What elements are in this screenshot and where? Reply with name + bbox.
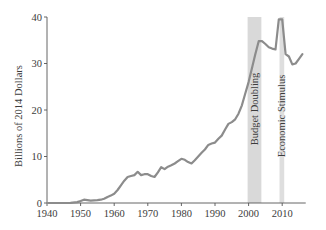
y-tick-label: 10 [32,151,43,162]
y-ticks: 010203040 [32,12,48,209]
y-axis-title: Billions of 2014 Dollars [13,65,24,167]
spending-line [47,19,302,203]
economic-stimulus-label: Economic Stimulus [276,75,287,158]
y-tick-label: 30 [32,58,43,69]
x-ticks: 19401950196019701980199020002010 [37,203,293,219]
x-tick-label: 1960 [104,208,125,219]
x-tick-label: 1970 [137,208,158,219]
y-tick-label: 20 [32,105,43,116]
x-tick-label: 2000 [238,208,259,219]
y-tick-label: 40 [32,12,43,23]
line-chart: 010203040 194019501960197019801990200020… [0,0,326,230]
x-tick-label: 1940 [37,208,58,219]
x-tick-label: 1950 [70,208,91,219]
x-tick-label: 1980 [171,208,192,219]
x-tick-label: 2010 [272,208,293,219]
budget-doubling-label: Budget Doubling [249,72,260,145]
x-tick-label: 1990 [205,208,226,219]
